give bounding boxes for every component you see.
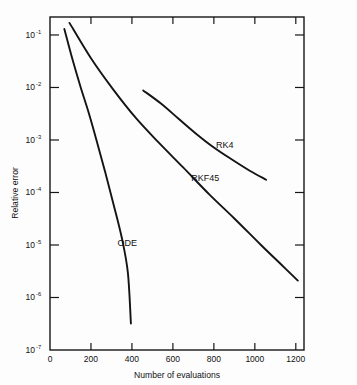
y-tick-label-10-7: 10-7 (26, 344, 42, 355)
svg-text:10: 10 (26, 345, 36, 355)
svg-text:-4: -4 (36, 186, 42, 192)
svg-text:10: 10 (26, 82, 36, 92)
svg-text:-7: -7 (36, 344, 41, 350)
x-axis-title: Number of evaluations (134, 370, 220, 380)
svg-text:-1: -1 (36, 29, 41, 35)
plot-frame (50, 17, 304, 350)
svg-text:10: 10 (26, 240, 36, 250)
curve-ode (64, 29, 131, 323)
data-curves (64, 23, 298, 324)
svg-text:10: 10 (26, 30, 36, 40)
svg-text:-3: -3 (36, 134, 41, 140)
y-tick-label-10-6: 10-6 (26, 291, 42, 302)
x-tick-label-0: 0 (48, 354, 53, 364)
y-tick-label-10-1: 10-1 (26, 29, 42, 40)
x-axis-tick-marks-bottom (91, 343, 296, 350)
y-axis-tick-labels: 10-110-210-310-410-510-610-7 (26, 29, 42, 355)
svg-text:10: 10 (26, 292, 36, 302)
x-tick-label-1000: 1000 (245, 354, 264, 364)
series-label-ode: ODE (118, 238, 138, 248)
x-tick-label-600: 600 (166, 354, 180, 364)
x-axis-tick-labels: 020040060080010001200 (48, 354, 306, 364)
x-tick-label-200: 200 (84, 354, 98, 364)
series-label-rkf45: RKF45 (191, 173, 219, 183)
x-tick-label-1200: 1200 (286, 354, 305, 364)
curve-rk4 (143, 90, 266, 179)
y-tick-label-10-2: 10-2 (26, 81, 42, 92)
y-axis-tick-marks-left (50, 35, 59, 298)
svg-text:10: 10 (26, 187, 36, 197)
y-axis-title: Relative error (10, 167, 20, 219)
y-tick-label-10-4: 10-4 (26, 186, 42, 197)
y-tick-label-10-5: 10-5 (26, 239, 42, 250)
relative-error-vs-evaluations-chart: 020040060080010001200 10-110-210-310-410… (0, 0, 357, 385)
svg-text:-5: -5 (36, 239, 41, 245)
svg-text:10: 10 (26, 135, 36, 145)
figure-container: 020040060080010001200 10-110-210-310-410… (0, 0, 357, 385)
y-tick-label-10-3: 10-3 (26, 134, 42, 145)
x-tick-label-400: 400 (125, 354, 139, 364)
series-inline-labels: ODERKF45RK4 (118, 140, 234, 248)
series-label-rk4: RK4 (216, 140, 234, 150)
y-axis-tick-marks-right (295, 35, 304, 298)
svg-text:-2: -2 (36, 81, 41, 87)
x-axis-tick-marks-top (91, 17, 296, 24)
x-tick-label-800: 800 (207, 354, 221, 364)
svg-text:-6: -6 (36, 291, 41, 297)
curve-rkf45 (69, 23, 297, 281)
